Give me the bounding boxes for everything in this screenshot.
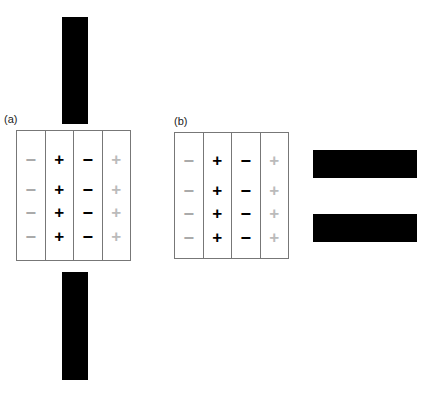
panel-b-label: (b) bbox=[174, 115, 187, 127]
plus-charge-icon: + bbox=[46, 204, 74, 221]
minus-charge-icon: − bbox=[232, 152, 260, 170]
plus-charge-icon: + bbox=[261, 182, 289, 199]
panel-a-label: (a) bbox=[4, 113, 17, 125]
minus-charge-icon: − bbox=[175, 205, 203, 223]
plus-charge-icon: + bbox=[261, 152, 289, 169]
plus-charge-icon: + bbox=[46, 151, 74, 168]
plus-charge-icon: + bbox=[103, 151, 131, 168]
plus-charge-icon: + bbox=[46, 228, 74, 245]
figure-caption bbox=[0, 389, 426, 395]
plus-charge-icon: + bbox=[204, 205, 232, 222]
right-horizontal-plate-top bbox=[313, 150, 417, 178]
minus-charge-icon: − bbox=[17, 228, 45, 246]
minus-charge-icon: − bbox=[74, 228, 102, 246]
minus-charge-icon: − bbox=[232, 205, 260, 223]
minus-charge-icon: − bbox=[17, 151, 45, 169]
minus-charge-icon: − bbox=[74, 181, 102, 199]
minus-charge-icon: − bbox=[232, 182, 260, 200]
minus-charge-icon: − bbox=[17, 181, 45, 199]
right-horizontal-plate-bottom bbox=[313, 214, 417, 242]
charge-column: ++++ bbox=[46, 131, 75, 260]
minus-charge-icon: − bbox=[17, 204, 45, 222]
charge-column: ++++ bbox=[103, 131, 131, 260]
minus-charge-icon: − bbox=[74, 151, 102, 169]
panel-a-charge-grid: −−−−++++−−−−++++ bbox=[16, 130, 131, 261]
plus-charge-icon: + bbox=[204, 229, 232, 246]
plus-charge-icon: + bbox=[103, 181, 131, 198]
minus-charge-icon: − bbox=[74, 204, 102, 222]
charge-column: ++++ bbox=[204, 133, 233, 258]
minus-charge-icon: − bbox=[175, 182, 203, 200]
charge-column: −−−− bbox=[175, 133, 204, 258]
charge-column: −−−− bbox=[232, 133, 261, 258]
charge-column: −−−− bbox=[74, 131, 103, 260]
plus-charge-icon: + bbox=[204, 152, 232, 169]
minus-charge-icon: − bbox=[175, 229, 203, 247]
plus-charge-icon: + bbox=[204, 182, 232, 199]
plus-charge-icon: + bbox=[103, 204, 131, 221]
bottom-vertical-plate bbox=[62, 272, 88, 380]
panel-b-charge-grid: −−−−++++−−−−++++ bbox=[174, 132, 289, 259]
minus-charge-icon: − bbox=[175, 152, 203, 170]
plus-charge-icon: + bbox=[103, 228, 131, 245]
charge-column: ++++ bbox=[261, 133, 289, 258]
plus-charge-icon: + bbox=[46, 181, 74, 198]
plus-charge-icon: + bbox=[261, 229, 289, 246]
minus-charge-icon: − bbox=[232, 229, 260, 247]
charge-column: −−−− bbox=[17, 131, 46, 260]
top-vertical-plate bbox=[62, 17, 88, 124]
plus-charge-icon: + bbox=[261, 205, 289, 222]
